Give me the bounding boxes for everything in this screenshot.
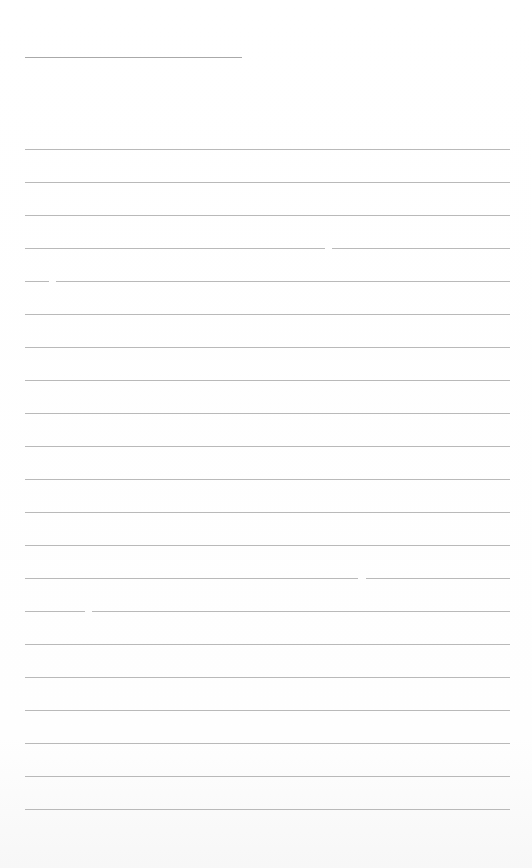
- title-line: [25, 57, 242, 58]
- writing-line: [25, 644, 510, 645]
- writing-line: [25, 545, 510, 546]
- writing-line: [25, 776, 510, 777]
- writing-line: [25, 578, 358, 579]
- writing-line: [332, 248, 510, 249]
- writing-line: [25, 248, 325, 249]
- writing-line: [25, 347, 510, 348]
- writing-line: [25, 281, 49, 282]
- writing-line: [25, 677, 510, 678]
- writing-line: [25, 512, 510, 513]
- writing-line: [25, 710, 510, 711]
- writing-line: [25, 380, 510, 381]
- writing-line: [25, 479, 510, 480]
- writing-line: [25, 413, 510, 414]
- writing-line: [25, 149, 510, 150]
- lined-page: [0, 0, 532, 868]
- writing-line: [92, 611, 510, 612]
- writing-line: [25, 182, 510, 183]
- writing-line: [56, 281, 510, 282]
- writing-line: [366, 578, 510, 579]
- writing-line: [25, 809, 510, 810]
- writing-line: [25, 743, 510, 744]
- writing-line: [25, 215, 510, 216]
- writing-line: [25, 446, 510, 447]
- writing-line: [25, 314, 510, 315]
- writing-line: [25, 611, 85, 612]
